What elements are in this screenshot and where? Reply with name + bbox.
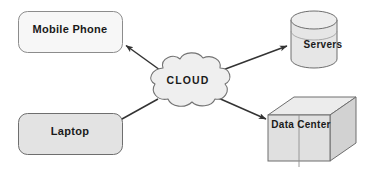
diagram-canvas-svg bbox=[0, 0, 366, 171]
arrow-cloud-to-data-center bbox=[216, 97, 266, 119]
arrow-cloud-to-mobile-phone bbox=[126, 46, 160, 71]
node-cloud[interactable] bbox=[151, 53, 230, 106]
servers-cylinder-top bbox=[291, 11, 337, 29]
node-data-center[interactable] bbox=[268, 97, 356, 167]
node-servers[interactable] bbox=[291, 11, 337, 68]
laptop-shape bbox=[19, 114, 123, 155]
node-laptop[interactable] bbox=[19, 114, 123, 155]
mobile-phone-shape bbox=[19, 12, 123, 53]
cloud-shape bbox=[151, 53, 230, 106]
node-mobile-phone[interactable] bbox=[19, 12, 123, 53]
cloud-topology-diagram: Mobile Phone Laptop CLOUD Servers Data C… bbox=[0, 0, 366, 171]
arrow-cloud-to-servers bbox=[216, 46, 287, 73]
